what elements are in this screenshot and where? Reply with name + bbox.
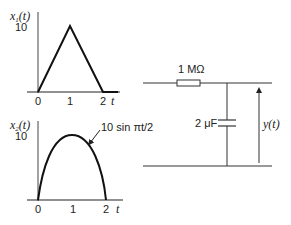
x2-xlabel: t	[116, 202, 120, 216]
x1-ytick-10: 10	[15, 21, 27, 33]
x1-xlabel: t	[111, 94, 115, 108]
x1-xtick-2: 2	[100, 95, 106, 107]
resistor-label: 1 MΩ	[178, 63, 205, 75]
x2-sine-curve	[38, 135, 106, 200]
x1-triangle-curve	[38, 26, 118, 92]
x1-xtick-0: 0	[35, 95, 41, 107]
x2-xtick-0: 0	[35, 203, 41, 215]
resistor-symbol	[177, 80, 200, 86]
x2-ytick-10: 10	[15, 130, 27, 142]
capacitor-label: 2 μF	[195, 117, 218, 129]
x1-xtick-1: 1	[67, 95, 73, 107]
output-label: y(t)	[262, 117, 280, 131]
x2-curve-label: 10 sin πt/2	[101, 121, 153, 133]
plot-x2: 10 sin πt/2 x2(t) 10 0 1 2 t	[9, 118, 153, 216]
plot-x1: x1(t) 10 0 1 2 t	[9, 9, 120, 108]
x2-annotation-arrow	[90, 130, 100, 143]
rc-circuit: 1 MΩ 2 μF y(t)	[143, 63, 280, 166]
x2-xtick-1: 1	[70, 203, 76, 215]
x2-xtick-2: 2	[103, 203, 109, 215]
